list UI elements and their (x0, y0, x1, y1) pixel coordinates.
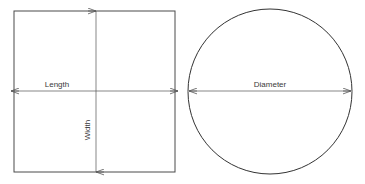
diagram-background (0, 0, 365, 184)
diameter-dimension-label: Diameter (254, 80, 287, 89)
shape-dimension-diagram: Length Width Diameter (0, 0, 365, 184)
width-dimension-label: Width (83, 120, 92, 140)
length-dimension-label: Length (45, 80, 69, 89)
